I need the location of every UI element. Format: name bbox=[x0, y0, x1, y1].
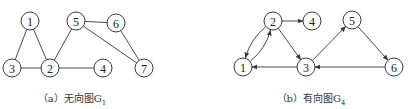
node-label: 4 bbox=[309, 15, 315, 29]
g1-node-3: 3 bbox=[3, 59, 21, 77]
g4-edge-5-6 bbox=[358, 27, 388, 61]
caption-graph-b: （b）有向图G4 bbox=[277, 90, 346, 107]
node-label: 6 bbox=[391, 61, 397, 75]
node-label: 4 bbox=[100, 62, 106, 76]
node-label: 3 bbox=[303, 61, 309, 75]
g4-edge-1-2 bbox=[250, 30, 270, 61]
caption-graph-a: （a）无向图G1 bbox=[38, 90, 106, 107]
g4-node-1: 1 bbox=[234, 58, 252, 76]
node-label: 1 bbox=[240, 61, 246, 75]
g1-edge-5-6 bbox=[85, 21, 107, 22]
g1-edge-2-5 bbox=[54, 29, 71, 60]
g1-node-5: 5 bbox=[67, 12, 85, 30]
g4-edge-2-3 bbox=[278, 28, 301, 59]
directed-graph-g4: 123456 bbox=[234, 11, 403, 76]
g1-node-2: 2 bbox=[41, 59, 59, 77]
g4-node-3: 3 bbox=[297, 58, 315, 76]
caption-a-subscript: 1 bbox=[102, 99, 106, 107]
undirected-graph-g1: 1234567 bbox=[3, 12, 153, 77]
g4-node-4: 4 bbox=[303, 12, 321, 30]
g1-node-7: 7 bbox=[135, 59, 153, 77]
node-label: 2 bbox=[270, 15, 276, 29]
node-label: 7 bbox=[141, 62, 147, 76]
node-label: 5 bbox=[349, 14, 355, 28]
g4-node-2: 2 bbox=[264, 12, 282, 30]
g1-node-1: 1 bbox=[21, 12, 39, 30]
caption-a-text: （a）无向图G bbox=[38, 93, 102, 104]
g4-edge-3-5 bbox=[312, 26, 345, 60]
g1-node-4: 4 bbox=[94, 59, 112, 77]
g1-edge-1-2 bbox=[34, 29, 47, 59]
g1-edge-1-3 bbox=[15, 29, 27, 59]
g4-node-6: 6 bbox=[385, 58, 403, 76]
node-label: 3 bbox=[9, 62, 15, 76]
node-label: 2 bbox=[47, 62, 53, 76]
node-label: 5 bbox=[73, 15, 79, 29]
g4-node-5: 5 bbox=[343, 11, 361, 29]
caption-b-subscript: 4 bbox=[341, 99, 345, 107]
node-label: 1 bbox=[27, 15, 33, 29]
caption-b-text: （b）有向图G bbox=[277, 93, 341, 104]
g1-edge-5-7 bbox=[83, 26, 136, 63]
g1-edge-6-7 bbox=[121, 31, 139, 61]
node-label: 6 bbox=[113, 17, 119, 31]
g4-edge-2-1 bbox=[245, 27, 265, 58]
g1-node-6: 6 bbox=[107, 14, 125, 32]
